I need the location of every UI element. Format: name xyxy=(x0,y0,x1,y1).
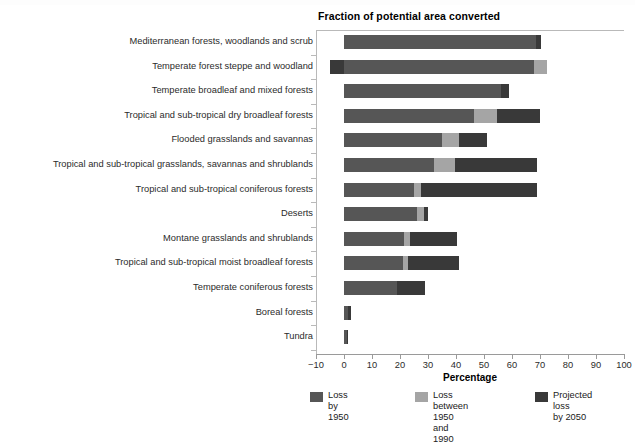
bar-segment xyxy=(497,109,540,123)
legend-label: Loss between 1950 and 1990 xyxy=(433,390,468,445)
bar-segment xyxy=(414,183,421,197)
bar-row: Tropical and sub-tropical coniferous for… xyxy=(0,178,635,202)
category-label: Tropical and sub-tropical coniferous for… xyxy=(136,184,313,195)
category-label: Boreal forests xyxy=(256,307,313,318)
bar-segment xyxy=(459,133,487,147)
stacked-bar[interactable] xyxy=(344,281,425,295)
category-label: Deserts xyxy=(281,208,313,219)
bar-segment xyxy=(474,109,496,123)
bar-segment xyxy=(434,158,455,172)
category-label: Tropical and sub-tropical moist broadlea… xyxy=(115,257,313,268)
category-label: Mediterranean forests, woodlands and scr… xyxy=(130,36,313,47)
bar-segment xyxy=(344,281,397,295)
x-axis-tick-label: 100 xyxy=(604,360,635,370)
x-axis-tick xyxy=(512,354,513,359)
bar-row: Temperate broadleaf and mixed forests xyxy=(0,79,635,103)
x-axis-tick xyxy=(456,354,457,359)
x-axis-tick xyxy=(400,354,401,359)
bar-row: Deserts xyxy=(0,202,635,226)
category-label: Temperate broadleaf and mixed forests xyxy=(152,85,313,96)
legend-swatch xyxy=(535,392,548,402)
bar-segment xyxy=(348,306,351,320)
bar-segment xyxy=(344,133,442,147)
x-axis-tick xyxy=(344,354,345,359)
bar-segment xyxy=(408,256,458,270)
category-label: Temperate forest steppe and woodland xyxy=(152,61,313,72)
stacked-bar[interactable] xyxy=(330,60,547,74)
bar-segment xyxy=(421,183,537,197)
stacked-bar[interactable] xyxy=(344,35,541,49)
stacked-bar[interactable] xyxy=(344,306,351,320)
legend-swatch xyxy=(310,392,323,402)
category-label: Montane grasslands and shrublands xyxy=(163,233,313,244)
bar-segment xyxy=(344,109,474,123)
bar-row: Flooded grasslands and savannas xyxy=(0,128,635,152)
x-axis-tick xyxy=(484,354,485,359)
bar-segment xyxy=(455,158,538,172)
bar-segment xyxy=(344,256,403,270)
x-axis-tick xyxy=(596,354,597,359)
x-axis-tick xyxy=(540,354,541,359)
stacked-bar[interactable] xyxy=(344,207,428,221)
category-label: Tropical and sub-tropical grasslands, sa… xyxy=(53,159,313,170)
bar-segment xyxy=(410,232,458,246)
stacked-bar[interactable] xyxy=(344,133,487,147)
legend-label: Projected loss by 2050 xyxy=(553,390,592,423)
bar-row: Temperate forest steppe and woodland xyxy=(0,55,635,79)
bar-row: Tropical and sub-tropical dry broadleaf … xyxy=(0,104,635,128)
bar-row: Montane grasslands and shrublands xyxy=(0,227,635,251)
bar-segment xyxy=(344,60,534,74)
clipped-header-artifact xyxy=(0,0,635,5)
bar-row: Temperate coniferous forests xyxy=(0,276,635,300)
x-axis-tick xyxy=(624,354,625,359)
bar-segment xyxy=(344,207,417,221)
bar-segment xyxy=(424,207,428,221)
x-axis-spine xyxy=(316,354,624,355)
x-axis-tick xyxy=(316,354,317,359)
bar-segment xyxy=(397,281,425,295)
bar-row: Tropical and sub-tropical grasslands, sa… xyxy=(0,153,635,177)
stacked-bar[interactable] xyxy=(344,158,537,172)
x-axis-tick xyxy=(428,354,429,359)
bar-row: Mediterranean forests, woodlands and scr… xyxy=(0,30,635,54)
bar-segment xyxy=(344,84,501,98)
category-label: Temperate coniferous forests xyxy=(193,282,313,293)
stacked-bar[interactable] xyxy=(344,84,509,98)
category-label: Tropical and sub-tropical dry broadleaf … xyxy=(124,110,313,121)
bar-segment xyxy=(344,158,434,172)
bar-segment xyxy=(344,183,414,197)
legend-label: Loss by 1950 xyxy=(328,390,349,423)
stacked-bar[interactable] xyxy=(344,330,348,344)
bar-segment xyxy=(501,84,509,98)
stacked-bar[interactable] xyxy=(344,109,540,123)
bar-segment xyxy=(417,207,424,221)
x-axis-title: Percentage xyxy=(316,372,624,383)
stacked-bar[interactable] xyxy=(344,183,537,197)
bar-segment xyxy=(536,35,542,49)
bar-row: Boreal forests xyxy=(0,301,635,325)
bar-segment xyxy=(330,60,344,74)
bar-segment xyxy=(344,232,404,246)
bar-segment xyxy=(344,35,536,49)
bar-row: Tropical and sub-tropical moist broadlea… xyxy=(0,251,635,275)
category-label: Flooded grasslands and savannas xyxy=(171,134,313,145)
stacked-bar[interactable] xyxy=(344,256,459,270)
x-axis-tick xyxy=(372,354,373,359)
bar-segment xyxy=(347,330,348,344)
chart-legend: Loss by 1950Loss between 1950 and 1990Pr… xyxy=(310,391,630,421)
stacked-bar[interactable] xyxy=(344,232,457,246)
y-axis-tick xyxy=(311,350,317,351)
x-axis-tick xyxy=(568,354,569,359)
bar-row: Tundra xyxy=(0,325,635,349)
legend-swatch xyxy=(415,392,428,402)
chart-title: Fraction of potential area converted xyxy=(318,10,500,22)
bar-segment xyxy=(534,60,547,74)
category-label: Tundra xyxy=(284,331,313,342)
bar-segment xyxy=(442,133,459,147)
